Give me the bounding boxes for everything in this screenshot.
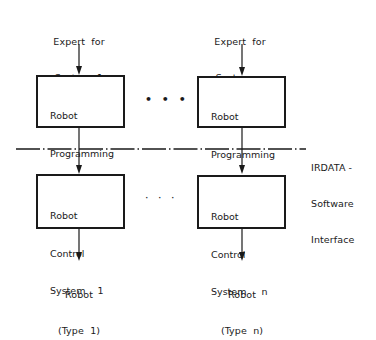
box-line2: Programming: [50, 148, 114, 161]
robot-label-line1: Robot: [212, 289, 272, 301]
robot-type-n-label: Robot (Type n): [212, 265, 272, 340]
expert-label-line1: Expert for: [208, 36, 272, 48]
robot-programming-system-1-box: Robot Programming System 1: [36, 75, 125, 128]
irdata-interface-label: IRDATA - Software Interface: [311, 138, 354, 270]
interface-line3: Interface: [311, 234, 354, 246]
box-line1: Robot: [211, 111, 275, 124]
box-line1: Robot: [211, 211, 268, 224]
box-line2: Control: [211, 249, 268, 262]
robot-type-1-label: Robot (Type 1): [49, 265, 109, 340]
ellipsis-top: • • •: [145, 93, 189, 106]
box-line2: Programming: [211, 149, 275, 162]
robot-control-system-1-box: Robot Control System 1: [36, 174, 125, 229]
robot-label-line2: (Type 1): [49, 325, 109, 337]
robot-control-system-n-box: Robot Control System n: [197, 175, 286, 229]
box-line1: Robot: [50, 210, 104, 223]
robot-label-line2: (Type n): [212, 325, 272, 337]
robot-programming-system-n-box: Robot Programming System n: [197, 76, 286, 128]
interface-line2: Software: [311, 198, 354, 210]
box-line2: Control: [50, 248, 104, 261]
expert-label-line1: Expert for: [47, 36, 111, 48]
robot-label-line1: Robot: [49, 289, 109, 301]
ellipsis-bottom: · · ·: [145, 191, 177, 204]
interface-line1: IRDATA -: [311, 162, 354, 174]
box-line1: Robot: [50, 110, 114, 123]
